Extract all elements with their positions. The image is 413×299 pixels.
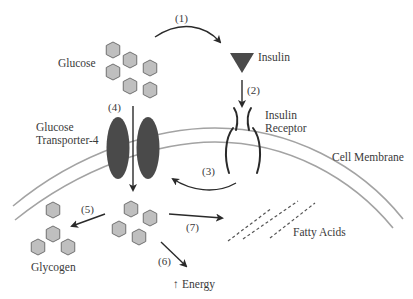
step-5-label: (5) bbox=[81, 203, 94, 216]
insulin-receptor-label-line2: Receptor bbox=[265, 122, 307, 135]
step-3-label: (3) bbox=[202, 165, 215, 178]
energy-up-arrow-icon: ↑ bbox=[173, 278, 179, 290]
insulin-receptor-label-line1: Insulin bbox=[265, 109, 297, 121]
glycogen-label: Glycogen bbox=[31, 261, 76, 274]
step-6-label: (6) bbox=[158, 255, 171, 268]
glucose-molecules-inside bbox=[112, 201, 157, 245]
glycogen-molecules bbox=[31, 202, 75, 255]
energy-label: Energy bbox=[182, 278, 215, 291]
glut4-label-line2: Transporter-4 bbox=[36, 134, 99, 147]
insulin-receptor-icon bbox=[226, 108, 260, 173]
insulin-label: Insulin bbox=[258, 51, 290, 63]
step-7-arrow bbox=[169, 214, 222, 218]
step-4-label: (4) bbox=[108, 101, 121, 114]
glucose-label: Glucose bbox=[58, 57, 96, 69]
cell-membrane-label: Cell Membrane bbox=[332, 151, 404, 163]
insulin-glucose-diagram: Glucose (1) Insulin (2) Insulin Receptor… bbox=[0, 0, 413, 299]
step-3-arrow bbox=[173, 179, 236, 190]
step-1-arrow bbox=[155, 26, 220, 42]
glucose-molecules-outside bbox=[106, 42, 157, 98]
step-2-label: (2) bbox=[247, 84, 260, 97]
step-1-label: (1) bbox=[175, 12, 188, 25]
step-7-label: (7) bbox=[186, 221, 199, 234]
step-5-arrow bbox=[72, 214, 105, 226]
insulin-triangle-icon bbox=[230, 53, 254, 73]
fatty-acids-label: Fatty Acids bbox=[293, 226, 346, 239]
glut4-label-line1: Glucose bbox=[36, 121, 74, 133]
